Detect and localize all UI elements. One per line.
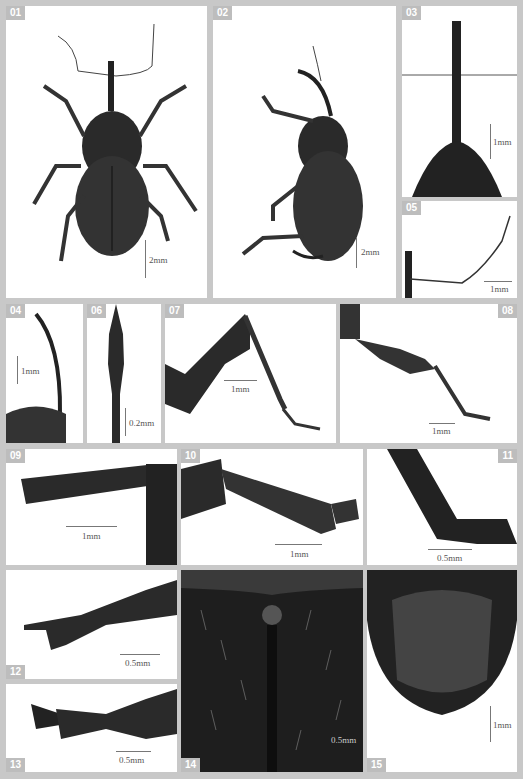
scale-bar — [275, 544, 322, 545]
panel-label: 11 — [498, 449, 517, 463]
panel-12: 12 0.5mm — [6, 570, 177, 679]
scale-bar — [125, 408, 126, 436]
scale-text: 1mm — [231, 384, 250, 394]
fore-leg-illustration — [165, 304, 336, 443]
scale-bar — [17, 356, 18, 384]
scale-text: 2mm — [149, 255, 168, 265]
scale-bar — [428, 549, 472, 550]
scale-bar — [224, 380, 257, 381]
panel-06: 06 0.2mm — [87, 304, 161, 443]
scale-bar — [120, 654, 160, 655]
panel-05: 05 1mm — [402, 201, 517, 298]
panel-09: 09 1mm — [6, 449, 177, 565]
panel-label: 06 — [87, 304, 106, 318]
panel-08: 08 1mm — [340, 304, 517, 443]
scale-bar — [429, 423, 455, 424]
scale-text: 1mm — [493, 137, 512, 147]
panel-label: 07 — [165, 304, 184, 318]
panel-11: 11 0.5mm — [367, 449, 517, 565]
panel-label: 02 — [213, 6, 232, 20]
panel-label: 14 — [181, 758, 200, 772]
panel-04: 04 1mm — [6, 304, 83, 443]
scale-text: 0.5mm — [119, 755, 144, 765]
abdomen-ventral-illustration — [367, 570, 517, 772]
panel-label: 13 — [6, 758, 25, 772]
scale-text: 1mm — [432, 426, 451, 436]
scale-bar — [484, 281, 512, 282]
fore-tibia-illustration — [6, 449, 177, 565]
panel-07: 07 1mm — [165, 304, 336, 443]
panel-10: 10 1mm — [181, 449, 363, 565]
panel-label: 10 — [181, 449, 200, 463]
tarsus-dorsal-illustration — [6, 570, 177, 679]
panel-label: 05 — [402, 201, 421, 215]
panel-label: 08 — [498, 304, 517, 318]
rostrum-dorsal-illustration — [402, 6, 517, 197]
panel-label: 01 — [6, 6, 25, 20]
scale-text: 0.5mm — [331, 735, 356, 745]
panel-14: 14 0.5mm — [181, 570, 363, 772]
weevil-dorsal-illustration — [6, 6, 207, 298]
panel-01: 01 2mm — [6, 6, 207, 298]
scale-bar — [66, 526, 117, 527]
scale-text: 0.5mm — [437, 553, 462, 563]
scale-text: 1mm — [21, 366, 40, 376]
scale-bar — [116, 751, 151, 752]
panel-03: 03 1mm — [402, 6, 517, 197]
scale-bar — [145, 240, 146, 278]
scale-text: 0.2mm — [129, 418, 154, 428]
scale-bar — [356, 238, 357, 268]
mid-tibia-illustration — [181, 449, 363, 565]
panel-label: 15 — [367, 758, 386, 772]
scale-text: 1mm — [493, 720, 512, 730]
panel-02: 02 2mm — [213, 6, 396, 298]
panel-13: 13 0.5mm — [6, 684, 177, 772]
scale-text: 0.5mm — [125, 658, 150, 668]
panel-label: 09 — [6, 449, 25, 463]
panel-label: 04 — [6, 304, 25, 318]
panel-label: 03 — [402, 6, 421, 20]
scale-text: 1mm — [290, 549, 309, 559]
scale-text: 1mm — [82, 531, 101, 541]
scale-bar — [490, 706, 491, 742]
scale-bar — [490, 124, 491, 159]
tibia-apex-illustration — [367, 449, 517, 565]
panel-15: 15 1mm — [367, 570, 517, 772]
scale-text: 2mm — [361, 247, 380, 257]
panel-label: 12 — [6, 665, 25, 679]
tarsus-lateral-illustration — [6, 684, 177, 772]
scale-text: 1mm — [490, 284, 509, 294]
